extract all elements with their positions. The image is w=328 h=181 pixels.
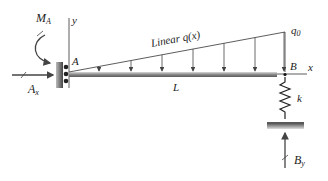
force-arrow-By <box>282 133 288 168</box>
spring <box>280 77 290 119</box>
label-point-B: B <box>290 61 297 72</box>
beam-diagram: MA y A Ax Linear q(x) q0 B x L k By <box>0 0 328 181</box>
label-length: L <box>173 82 179 93</box>
label-force-By: By <box>294 154 305 168</box>
force-arrow-Ax <box>12 72 53 78</box>
label-q0: q0 <box>291 25 301 38</box>
label-x-axis: x <box>308 62 313 73</box>
fixed-support-A <box>56 62 68 88</box>
label-force-Ax: Ax <box>28 83 39 97</box>
label-point-A: A <box>72 56 79 67</box>
label-spring-k: k <box>297 93 302 104</box>
label-y-axis: y <box>72 15 77 26</box>
spring-ground <box>267 123 304 129</box>
label-moment-A: MA <box>36 12 51 26</box>
beam <box>69 72 277 77</box>
moment-arrow-A <box>35 31 50 63</box>
